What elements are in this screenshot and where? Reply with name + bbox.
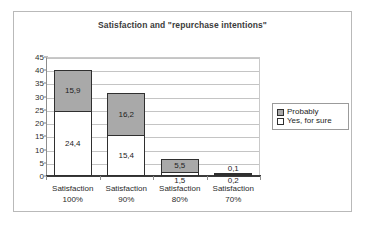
bar-group[interactable]: 5,51,5 <box>161 57 199 176</box>
bar-value-label: 16,2 <box>118 111 134 119</box>
x-tick-mark <box>207 176 208 180</box>
category-label-line2: 90% <box>100 195 154 206</box>
category-label-line2: 80% <box>153 195 207 206</box>
y-axis: 454035302520151050 <box>10 57 44 176</box>
bar-segment-probably[interactable]: 16,2 <box>107 93 145 136</box>
category-label-line2: 100% <box>46 195 100 206</box>
bar-value-label: 5,5 <box>174 162 185 170</box>
bar-segment-probably[interactable]: 15,9 <box>54 70 92 112</box>
chart-title: Satisfaction and "repurchase intentions" <box>0 20 365 30</box>
y-tick-label: 10 <box>16 145 44 154</box>
y-tick-label: 25 <box>16 105 44 114</box>
x-tick-mark <box>46 176 47 180</box>
x-axis-category-label: Satisfaction80% <box>153 184 207 205</box>
chart-figure: Satisfaction and "repurchase intentions"… <box>0 0 365 235</box>
y-tick-label: 20 <box>16 119 44 128</box>
y-tick-label: 5 <box>16 158 44 167</box>
bar-segment-yes-for-sure[interactable]: 24,4 <box>54 111 92 176</box>
y-tick-label: 40 <box>16 66 44 75</box>
y-tick-label: 30 <box>16 92 44 101</box>
bar-segment-yes-for-sure[interactable]: 1,5 <box>161 172 199 176</box>
bar-segment-probably[interactable]: 5,5 <box>161 159 199 174</box>
bar-group[interactable]: 15,924,4 <box>54 57 92 176</box>
y-tick-label: 35 <box>16 79 44 88</box>
bar-segment-yes-for-sure[interactable]: 15,4 <box>107 135 145 176</box>
y-tick-label: 45 <box>16 53 44 62</box>
bar-segment-yes-for-sure[interactable]: 0,2 <box>214 174 252 176</box>
legend-swatch-icon <box>277 109 284 116</box>
y-tick-label: 0 <box>16 172 44 181</box>
x-axis-category-label: Satisfaction90% <box>100 184 154 205</box>
legend-item[interactable]: Probably <box>277 108 344 116</box>
bar-value-label: 15,9 <box>65 87 81 95</box>
y-tick-label: 15 <box>16 132 44 141</box>
x-tick-mark <box>153 176 154 180</box>
legend-label: Yes, for sure <box>287 117 332 125</box>
x-axis-category-label: Satisfaction100% <box>46 184 100 205</box>
legend-swatch-icon <box>277 118 284 125</box>
x-tick-mark <box>260 176 261 180</box>
x-axis-category-label: Satisfaction70% <box>207 184 261 205</box>
bar-group[interactable]: 16,215,4 <box>107 57 145 176</box>
category-label-line1: Satisfaction <box>106 184 147 193</box>
bar-value-label: 24,4 <box>65 140 81 148</box>
chart-legend[interactable]: ProbablyYes, for sure <box>272 103 349 130</box>
legend-item[interactable]: Yes, for sure <box>277 117 344 125</box>
category-label-line1: Satisfaction <box>52 184 93 193</box>
legend-label: Probably <box>287 108 319 116</box>
x-tick-mark <box>100 176 101 180</box>
bar-group[interactable]: 0,10,2 <box>214 57 252 176</box>
bar-value-label: 0,1 <box>228 165 239 173</box>
category-label-line1: Satisfaction <box>213 184 254 193</box>
bar-value-label: 15,4 <box>118 152 134 160</box>
category-label-line2: 70% <box>207 195 261 206</box>
category-label-line1: Satisfaction <box>159 184 200 193</box>
